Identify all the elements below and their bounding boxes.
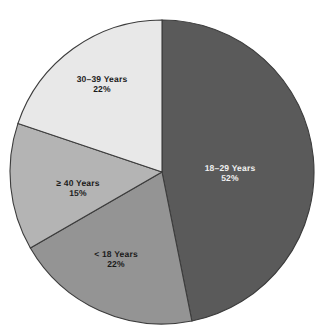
pie-slice-percent: 52% [205, 173, 256, 183]
pie-slice-percent: 22% [77, 84, 128, 94]
pie-slice-category: < 18 Years [94, 249, 138, 259]
pie-slice-category: ≥ 40 Years [56, 178, 99, 188]
pie-slice-percent: 15% [56, 188, 99, 198]
pie-slice-label: < 18 Years22% [94, 249, 138, 269]
pie-slice-label: ≥ 40 Years15% [56, 178, 99, 198]
pie-slice-category: 18–29 Years [205, 163, 256, 173]
pie-slice-label: 30–39 Years22% [77, 74, 128, 94]
pie-slice-label: 18–29 Years52% [205, 163, 256, 183]
pie-chart-canvas [0, 0, 316, 325]
pie-slice-category: 30–39 Years [77, 74, 128, 84]
pie-slice-percent: 22% [94, 259, 138, 269]
pie-chart-figure: 18–29 Years52%< 18 Years22%≥ 40 Years15%… [0, 0, 316, 325]
